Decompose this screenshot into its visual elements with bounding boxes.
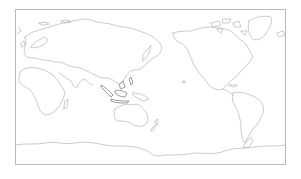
- madagascar-coastline: [64, 99, 68, 109]
- antarctica-coastline: [15, 142, 286, 156]
- north-america-coastline: [173, 27, 253, 90]
- world-map[interactable]: [15, 9, 286, 165]
- greenland-coastline: [248, 16, 271, 40]
- canadian-arctic-coastline: [211, 19, 247, 35]
- south-america-coastline: [232, 92, 263, 143]
- arctic-islands-coastline: [39, 20, 71, 25]
- british-isles-coastline: [21, 41, 25, 47]
- indonesia-coastline: [101, 77, 133, 103]
- south-asia-coastline: [59, 73, 93, 88]
- japan-coastline: [143, 45, 151, 61]
- scandinavia-coastline: [31, 37, 47, 48]
- new-zealand-coastline: [151, 119, 158, 131]
- africa-coastline: [19, 68, 65, 115]
- australia-coastline: [114, 104, 148, 126]
- eurasia-coastline: [17, 19, 162, 84]
- hawaii-coastline: [183, 81, 185, 83]
- new-guinea-coastline: [133, 93, 149, 101]
- iceland-coastline: [277, 31, 285, 37]
